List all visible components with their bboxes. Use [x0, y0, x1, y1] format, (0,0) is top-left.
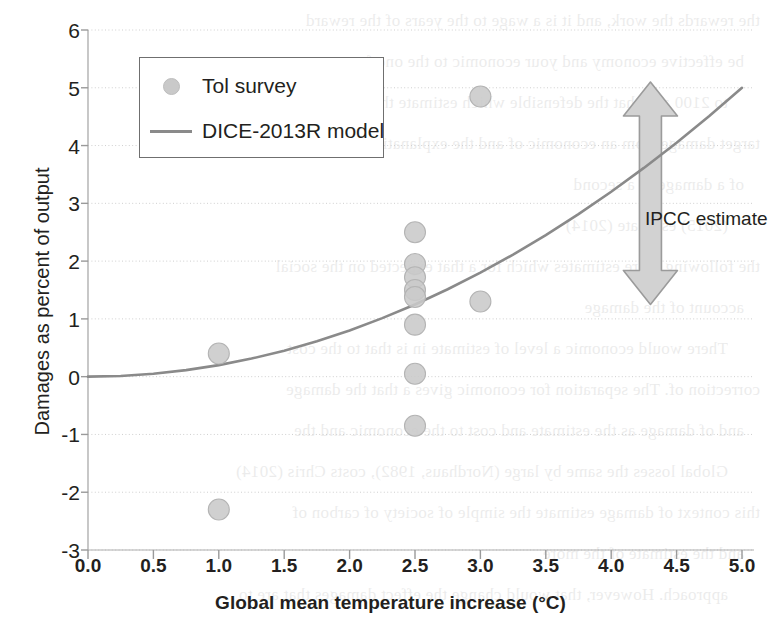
- x-tick-label: 0.5: [123, 556, 183, 575]
- tol-survey-point: [405, 222, 426, 243]
- x-tick-label: 4.5: [647, 556, 707, 575]
- tol-survey-point: [208, 499, 229, 520]
- tol-survey-point: [208, 343, 229, 364]
- chart-legend: Tol survey DICE-2013R model: [139, 57, 384, 158]
- legend-item-dice-model: DICE-2013R model: [140, 111, 383, 151]
- x-axis-title: Global mean temperature increase (°C): [0, 592, 781, 614]
- damage-function-chart: 6543210-1-2-3 0.00.51.01.52.02.53.03.54.…: [0, 0, 781, 638]
- tol-survey-point: [405, 314, 426, 335]
- legend-label-tol-survey: Tol survey: [202, 74, 297, 98]
- x-tick-label: 2.0: [320, 556, 380, 575]
- tol-survey-point: [470, 86, 491, 107]
- legend-line-swatch-icon: [140, 130, 202, 133]
- tol-survey-point: [405, 286, 426, 307]
- ipcc-estimate-label: IPCC estimate: [645, 208, 767, 230]
- x-tick-label: 3.5: [516, 556, 576, 575]
- legend-item-tol-survey: Tol survey: [140, 66, 383, 106]
- tol-survey-point: [405, 415, 426, 436]
- x-axis-ticks: 0.00.51.01.52.02.53.03.54.04.55.0: [0, 556, 781, 582]
- y-axis-title: Damages as percent of output: [31, 92, 54, 512]
- x-tick-label: 3.0: [450, 556, 510, 575]
- legend-label-dice-model: DICE-2013R model: [202, 119, 384, 143]
- x-tick-label: 5.0: [712, 556, 772, 575]
- legend-marker-dot-icon: [140, 78, 202, 95]
- tol-survey-point: [470, 291, 491, 312]
- x-tick-label: 4.0: [581, 556, 641, 575]
- tol-survey-point: [405, 363, 426, 384]
- x-tick-label: 0.0: [58, 556, 118, 575]
- x-tick-label: 1.0: [189, 556, 249, 575]
- x-tick-label: 2.5: [385, 556, 445, 575]
- plot-area: [0, 0, 781, 638]
- ipcc-estimate-arrow: [623, 82, 677, 304]
- x-tick-label: 1.5: [254, 556, 314, 575]
- y-tick-label: 6: [46, 20, 80, 41]
